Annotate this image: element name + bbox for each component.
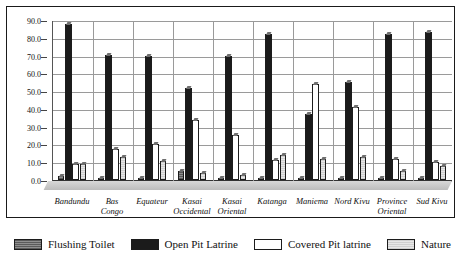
- bar-cap: [153, 142, 159, 145]
- x-axis-category-label: BasCongo: [92, 197, 132, 216]
- y-axis-tick: [41, 21, 47, 22]
- bar-cap: [226, 54, 232, 57]
- bar-cap: [106, 53, 112, 56]
- bar-covered-pit-latrine: [432, 162, 438, 180]
- bar-cap: [121, 155, 127, 158]
- y-axis-tick-label: 30.0: [27, 123, 41, 132]
- bar-open-pit-latrine: [105, 55, 111, 180]
- bar-open-pit-latrine: [145, 56, 151, 180]
- bar-cap: [441, 164, 447, 167]
- bar-covered-pit-latrine: [152, 144, 158, 180]
- x-axis-label-line: Oriental: [372, 207, 412, 217]
- bar-cap: [339, 176, 345, 179]
- legend-item: Nature: [387, 238, 451, 250]
- x-axis-category-label: ProvinceOriental: [372, 197, 412, 216]
- bar-group: [333, 20, 373, 180]
- bar-cap: [161, 159, 167, 162]
- bar-covered-pit-latrine: [352, 107, 358, 180]
- x-axis-labels: BandunduBasCongoEquateurKasaiOccidentalK…: [48, 197, 456, 221]
- bar-cap: [379, 176, 385, 179]
- bar-covered-pit-latrine: [192, 120, 198, 180]
- bar-group: [293, 20, 333, 180]
- bar-cap: [146, 54, 152, 57]
- chart-frame: 0.010.020.030.040.050.060.070.080.090.0 …: [6, 6, 455, 218]
- legend-swatch: [14, 239, 42, 250]
- bar-flushing-toilet: [418, 178, 424, 180]
- y-axis-tick: [41, 128, 47, 129]
- x-axis-label-line: Katanga: [252, 197, 292, 207]
- bar-covered-pit-latrine: [272, 160, 278, 180]
- x-axis-category-label: Nord Kivu: [332, 197, 372, 207]
- y-axis: 0.010.020.030.040.050.060.070.080.090.0: [7, 21, 47, 189]
- bar-cap: [201, 171, 207, 174]
- bar-nature: [320, 159, 326, 180]
- y-axis-tick: [41, 163, 47, 164]
- y-axis-tick: [41, 74, 47, 75]
- bar-cap: [219, 176, 225, 179]
- bar-covered-pit-latrine: [232, 135, 238, 180]
- y-axis-tick: [41, 145, 47, 146]
- bar-covered-pit-latrine: [312, 84, 318, 180]
- bar-open-pit-latrine: [305, 114, 311, 180]
- bar-cap: [353, 105, 359, 108]
- y-axis-tick-label: 90.0: [27, 17, 41, 26]
- bar-nature: [240, 175, 246, 180]
- bar-cap: [233, 133, 239, 136]
- bar-flushing-toilet: [178, 171, 184, 180]
- bar-flushing-toilet: [378, 178, 384, 180]
- x-axis-category-label: Bandundu: [52, 197, 92, 207]
- x-axis-label-line: Sud Kivu: [412, 197, 452, 207]
- bar-flushing-toilet: [338, 178, 344, 180]
- bar-open-pit-latrine: [385, 34, 391, 180]
- y-axis-tick: [41, 39, 47, 40]
- bar-cap: [299, 176, 305, 179]
- y-axis-tick-label: 20.0: [27, 141, 41, 150]
- bar-cap: [99, 176, 105, 179]
- bar-cap: [313, 82, 319, 85]
- bar-cap: [386, 32, 392, 35]
- bar-cap: [401, 169, 407, 172]
- bar-nature: [280, 155, 286, 180]
- x-axis-label-line: Congo: [92, 207, 132, 217]
- y-axis-tick-label: 60.0: [27, 70, 41, 79]
- x-axis-label-line: Oriental: [212, 207, 252, 217]
- bar-cap: [306, 112, 312, 115]
- bar-cap: [419, 176, 425, 179]
- x-axis-label-line: Maniema: [292, 197, 332, 207]
- bar-nature: [120, 157, 126, 180]
- bar-nature: [200, 173, 206, 180]
- legend-label: Flushing Toilet: [48, 238, 115, 250]
- x-axis-category-label: Maniema: [292, 197, 332, 207]
- y-axis-tick-label: 50.0: [27, 88, 41, 97]
- x-axis-category-label: Katanga: [252, 197, 292, 207]
- bar-nature: [400, 171, 406, 180]
- legend-label: Covered Pit latrine: [288, 238, 371, 250]
- bar-open-pit-latrine: [65, 24, 71, 180]
- bar-open-pit-latrine: [425, 32, 431, 180]
- bar-cap: [66, 22, 72, 25]
- y-axis-tick-label: 40.0: [27, 105, 41, 114]
- x-axis-category-label: KasaiOriental: [212, 197, 252, 216]
- chart-legend: Flushing ToiletOpen Pit LatrineCovered P…: [14, 234, 454, 254]
- chart-root: 0.010.020.030.040.050.060.070.080.090.0 …: [0, 0, 461, 266]
- legend-swatch: [131, 239, 159, 250]
- plot-floor: [44, 181, 452, 190]
- bar-cap: [393, 157, 399, 160]
- plot-inner: [52, 21, 452, 181]
- y-axis-tick-label: 0.0: [31, 177, 41, 186]
- bar-flushing-toilet: [218, 178, 224, 180]
- bar-flushing-toilet: [298, 178, 304, 180]
- bar-group: [373, 20, 413, 180]
- x-axis-category-label: KasaiOccidental: [172, 197, 212, 216]
- bar-group: [133, 20, 173, 180]
- bar-cap: [273, 158, 279, 161]
- bar-group: [253, 20, 293, 180]
- y-axis-tick-label: 80.0: [27, 34, 41, 43]
- legend-label: Nature: [421, 238, 451, 250]
- bar-covered-pit-latrine: [112, 149, 118, 180]
- bar-nature: [160, 161, 166, 180]
- bar-cap: [281, 153, 287, 156]
- bar-open-pit-latrine: [225, 56, 231, 180]
- bar-cap: [113, 147, 119, 150]
- bar-nature: [440, 166, 446, 180]
